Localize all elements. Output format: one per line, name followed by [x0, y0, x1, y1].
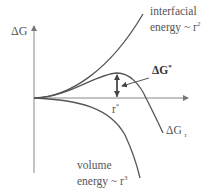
interfacial-exponent: 2 — [197, 20, 201, 28]
volume-exponent: 3 — [124, 174, 128, 182]
barrier-label-star: * — [168, 63, 172, 71]
y-axis-label: ΔG — [11, 25, 27, 37]
total-free-energy-label: ΔG r — [166, 125, 187, 139]
interfacial-energy-curve — [34, 14, 143, 98]
total-label-text: ΔG — [166, 124, 182, 136]
volume-label-line2: energy ~ r3 — [77, 175, 127, 188]
barrier-pointer-arrow — [122, 78, 149, 86]
volume-label-text: energy ~ r — [77, 175, 124, 187]
interfacial-label-line1: interfacial — [150, 6, 197, 18]
barrier-label: ΔG* — [152, 64, 172, 77]
interfacial-label-text: energy ~ r — [150, 21, 197, 33]
total-free-energy-curve — [34, 73, 163, 133]
interfacial-label-line2: energy ~ r2 — [150, 21, 200, 34]
total-label-subscript: r — [185, 131, 187, 139]
volume-label-line1: volume — [77, 160, 112, 172]
barrier-label-text: ΔG — [152, 64, 168, 76]
critical-radius-label: r* — [112, 103, 119, 116]
critical-radius-star: * — [116, 102, 120, 110]
